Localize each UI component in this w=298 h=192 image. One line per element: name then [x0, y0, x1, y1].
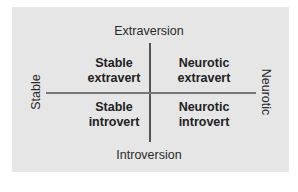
quadrant-label-line1: Neurotic: [148, 100, 260, 115]
quadrant-label-line1: Neurotic: [148, 56, 260, 71]
axis-label-neurotic: Neurotic: [259, 69, 273, 116]
axis-label-stable: Stable: [29, 74, 43, 109]
quadrant-neurotic-introvert: Neurotic introvert: [148, 100, 260, 130]
horizontal-axis-line: [46, 92, 256, 94]
axis-label-introversion: Introversion: [0, 148, 298, 162]
quadrant-label-line2: introvert: [148, 115, 260, 130]
quadrant-neurotic-extravert: Neurotic extravert: [148, 56, 260, 86]
axis-label-extraversion: Extraversion: [0, 24, 298, 38]
quadrant-label-line2: extravert: [148, 71, 260, 86]
